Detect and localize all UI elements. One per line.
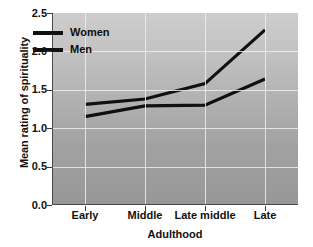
y-tick-mark	[47, 128, 52, 129]
legend: Women Men	[33, 24, 153, 58]
x-tick-mark	[265, 206, 266, 211]
legend-item-men: Men	[33, 41, 153, 58]
legend-label-women: Women	[70, 27, 110, 38]
vertical-gridline	[205, 13, 206, 205]
x-tick-mark	[145, 206, 146, 211]
y-tick-mark	[47, 167, 52, 168]
y-tick-mark	[47, 13, 52, 14]
horizontal-gridline	[52, 167, 298, 168]
y-tick-mark	[47, 205, 52, 206]
legend-label-men: Men	[70, 44, 92, 55]
horizontal-gridline	[52, 128, 298, 129]
x-tick-mark	[85, 206, 86, 211]
y-tick-label: 0.0	[21, 200, 47, 211]
y-tick-mark	[47, 90, 52, 91]
series-line-men	[85, 79, 265, 117]
chart-figure: Mean rating of spirituality 0.00.51.01.5…	[0, 0, 313, 247]
legend-line-swatch-women	[33, 31, 63, 35]
vertical-gridline	[265, 13, 266, 205]
y-tick-mark	[47, 51, 52, 52]
y-tick-label: 1.5	[21, 84, 47, 95]
x-axis-tick-labels: EarlyMiddleLate middleLate	[52, 209, 298, 224]
x-axis-title: Adulthood	[52, 228, 298, 240]
horizontal-gridline	[52, 90, 298, 91]
y-tick-label: 1.0	[21, 123, 47, 134]
y-tick-label: 0.5	[21, 161, 47, 172]
y-tick-label: 2.5	[21, 8, 47, 19]
x-tick-mark	[205, 206, 206, 211]
legend-item-women: Women	[33, 24, 153, 41]
